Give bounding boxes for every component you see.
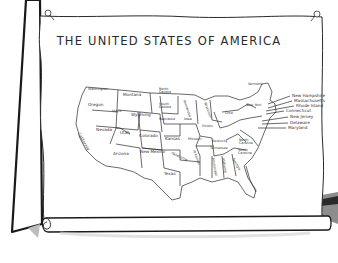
state-label: South Carolina [238,149,252,156]
state-label: North Carolina [239,139,253,146]
callout-label: Connecticut [286,109,311,113]
state-label: Nevada [96,128,112,132]
scroll-roll-bottom [42,216,331,232]
state-label: Kentucky [212,140,227,143]
state-label: Washington [88,88,108,91]
callout-label: Maryland [288,126,307,130]
state-label: Arizona [113,152,129,156]
state-label: Idaho [112,110,121,113]
callout-label: New Jersey [290,115,313,119]
state-label: New Mexico [140,150,165,154]
state-label: Utah [120,131,130,135]
map-title: THE UNITED STATES OF AMERICA [0,34,338,48]
state-label: Vermont [248,83,262,86]
state-label: South Dakota [159,103,175,110]
state-label: Illinois [202,125,213,128]
state-label: Iowa [184,118,192,121]
state-label: Kansas [165,137,180,141]
state-label: Colorado [139,134,158,138]
state-label: North Dakota [159,88,175,95]
state-label: Oregon [88,103,103,107]
state-label: Nebraska [159,118,175,121]
state-label: Missouri [188,138,202,141]
state-label: Texas [164,172,176,176]
state-label: Ohio [225,112,233,115]
state-label: Wyoming [131,113,151,117]
state-label: New York [246,104,262,107]
state-label: Montana [123,93,141,97]
state-label: Tennessee [210,147,228,150]
us-map-scroll-illustration: THE UNITED STATES OF AMERICA Washington … [0,0,338,263]
